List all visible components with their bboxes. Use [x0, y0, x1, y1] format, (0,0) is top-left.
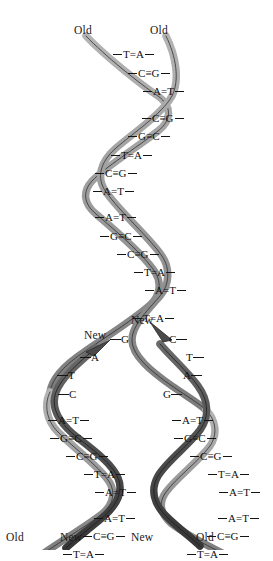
base-letter: G — [121, 333, 129, 345]
base-pair-tick-right — [125, 191, 134, 192]
base-pair-tick-right — [204, 420, 213, 421]
base-right: G — [152, 67, 160, 79]
base-pair-tick-right — [166, 272, 175, 273]
base-tick — [193, 357, 204, 358]
base-left: C — [217, 530, 224, 542]
base-pair-tick-right — [251, 492, 260, 493]
base-pair: A=T — [172, 415, 213, 427]
base-left: A — [103, 185, 111, 197]
base-left: G — [138, 130, 146, 142]
base-pair-tick-left — [134, 272, 143, 273]
base-left: A — [155, 284, 163, 296]
base-pair-tick-left — [172, 420, 181, 421]
strand-label-bottom: Old — [6, 532, 24, 544]
base-pair-tick-right — [95, 554, 104, 555]
base-pair: T=A — [187, 549, 228, 561]
base-pair: A=T — [95, 212, 136, 224]
base-left: G — [184, 432, 192, 444]
base-left: T — [123, 48, 130, 60]
hydrogen-bond: ≡ — [100, 531, 106, 542]
base-pair-tick-right — [99, 456, 108, 457]
base-pair-tick-left — [95, 217, 104, 218]
base-pair-tick-right — [240, 536, 249, 537]
base-right: T — [118, 512, 125, 524]
hydrogen-bond: ≡ — [192, 433, 198, 444]
base-pair: C≡G — [128, 68, 170, 80]
base-pair-tick-right — [143, 155, 152, 156]
base-letter: T — [186, 351, 193, 363]
base-pair-tick-left — [219, 492, 228, 493]
base-pair: T=A — [111, 150, 152, 162]
base-pair: A=T — [48, 415, 89, 427]
base-left: C — [138, 67, 145, 79]
base-left: T — [218, 468, 225, 480]
base-left: A — [228, 512, 236, 524]
hydrogen-bond: ≡ — [224, 531, 230, 542]
base-right: T — [196, 414, 203, 426]
base-right: C — [124, 230, 131, 242]
unpaired-base: T — [57, 370, 75, 381]
base-right: T — [119, 211, 126, 223]
hydrogen-bond: ≡ — [146, 131, 152, 142]
base-right: G — [107, 530, 115, 542]
base-pair-tick-right — [161, 73, 170, 74]
base-left: C — [127, 248, 134, 260]
base-pair: A=T — [218, 513, 259, 525]
hydrogen-bond: = — [113, 487, 119, 498]
hydrogen-bond: ≡ — [118, 231, 124, 242]
base-pair-tick-right — [127, 217, 136, 218]
base-pair: T=A — [113, 49, 154, 61]
base-pair-tick-left — [48, 420, 57, 421]
base-right: T — [119, 486, 126, 498]
strand-label-new: New — [84, 330, 106, 342]
base-pair-tick-left — [83, 536, 92, 537]
base-pair-tick-right — [165, 318, 174, 319]
base-pair-tick-left — [63, 554, 72, 555]
base-right: C — [198, 432, 205, 444]
base-right: A — [231, 468, 239, 480]
strand-label-bottom: New — [60, 532, 82, 544]
base-pair-tick-right — [219, 554, 228, 555]
base-pair: C≡G — [95, 168, 137, 180]
base-tick — [110, 339, 121, 340]
base-left: A — [153, 85, 161, 97]
base-right: A — [136, 48, 144, 60]
base-left: A — [58, 414, 66, 426]
base-left: A — [229, 486, 237, 498]
hydrogen-bond: = — [163, 285, 169, 296]
base-right: C — [152, 130, 159, 142]
base-pair: G≡C — [50, 433, 92, 445]
unpaired-base: T — [186, 352, 204, 363]
base-pair-tick-left — [100, 236, 109, 237]
strand-label-old-top: Old — [74, 25, 92, 37]
base-letter: A — [183, 369, 191, 381]
strand-label-bottom: Old — [196, 532, 214, 544]
base-pair-tick-left — [187, 554, 196, 555]
base-pair: G≡C — [174, 433, 216, 445]
base-pair-tick-right — [116, 536, 125, 537]
base-letter: C — [169, 333, 176, 345]
base-pair-tick-right — [116, 474, 125, 475]
base-pair-tick-left — [95, 173, 104, 174]
base-left: T — [73, 548, 80, 560]
hydrogen-bond: = — [225, 469, 231, 480]
base-pair-tick-left — [142, 118, 151, 119]
base-pair: T=A — [134, 267, 175, 279]
unpaired-base: C — [58, 389, 76, 400]
base-right: C — [74, 432, 81, 444]
hydrogen-bond: ≡ — [145, 68, 151, 79]
base-pair: G≡C — [128, 131, 170, 143]
base-pair-tick-left — [190, 456, 199, 457]
hydrogen-bond: = — [112, 513, 118, 524]
base-pair: C≡G — [83, 531, 125, 543]
unpaired-base: C — [169, 334, 187, 345]
base-pair-tick-left — [95, 492, 104, 493]
base-pair-tick-left — [143, 91, 152, 92]
base-left: T — [94, 468, 101, 480]
base-pair: A=T — [93, 186, 134, 198]
base-pair-tick-left — [128, 136, 137, 137]
base-pair-tick-left — [128, 73, 137, 74]
base-pair-tick-right — [145, 54, 154, 55]
base-pair-tick-right — [177, 290, 186, 291]
